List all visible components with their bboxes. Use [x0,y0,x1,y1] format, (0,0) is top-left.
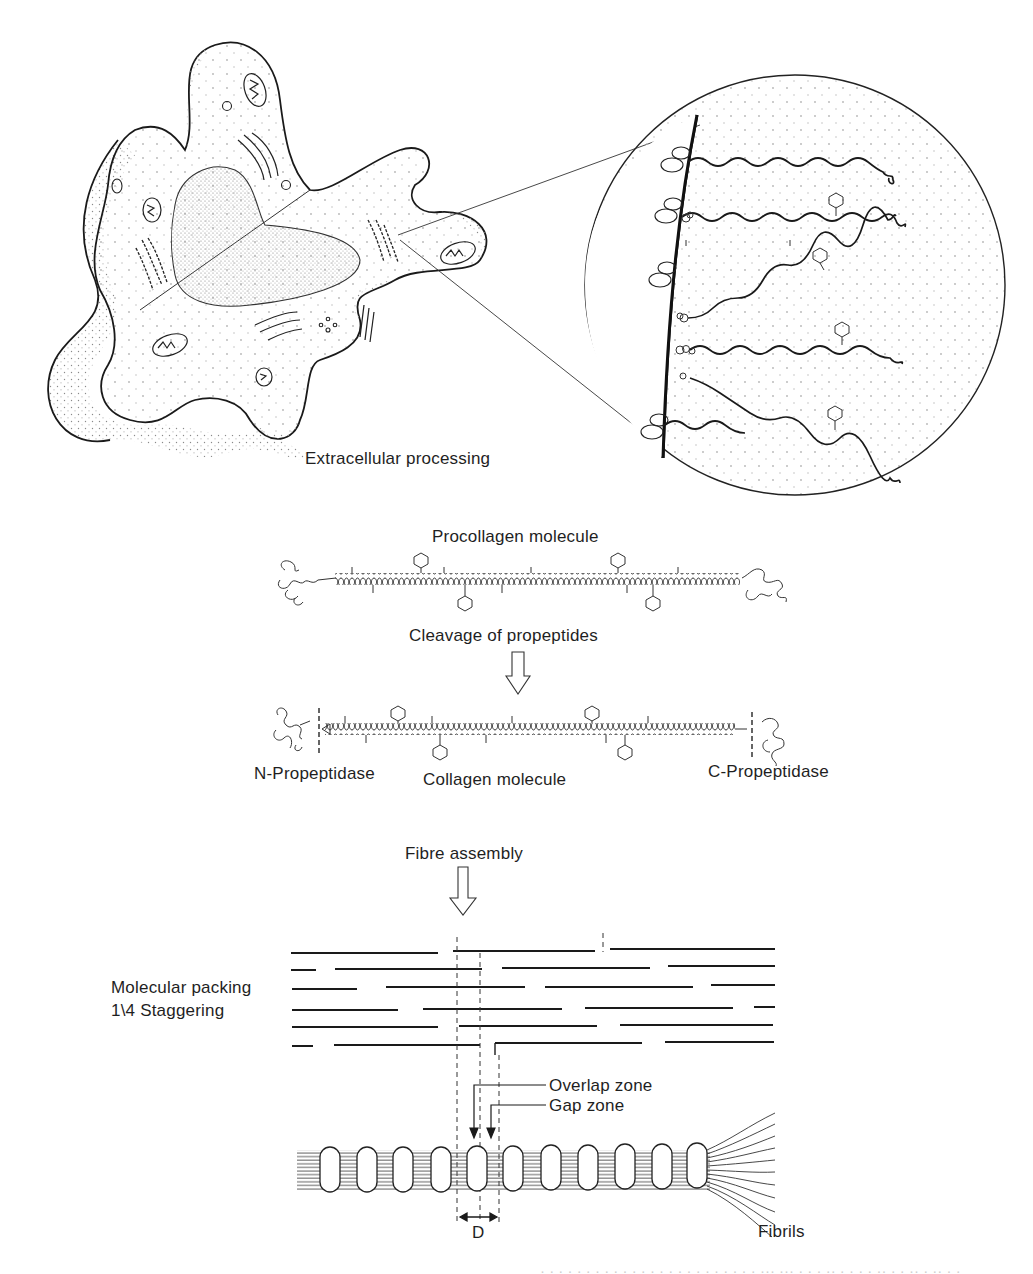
gap-zone-label: Gap zone [549,1097,624,1114]
fibrils-label: Fibrils [758,1223,805,1240]
cleavage-step-label: Cleavage of propeptides [409,627,598,644]
cut-off-caption-text: · · · · · · · · · · · · · · · · · · · · … [540,1262,961,1274]
collagen-molecule-illustration [274,706,784,766]
magnified-inset [585,75,1005,495]
n-propeptidase-label: N-Propeptidase [254,765,375,782]
d-period-indicator [460,1213,497,1221]
process-arrow-down-icon [450,867,476,915]
collagen-molecule-label: Collagen molecule [423,771,566,788]
zone-pointers [470,1085,546,1138]
procollagen-molecule-title: Procollagen molecule [432,528,599,545]
cell-illustration [48,42,486,459]
molecular-packing-label: Molecular packing [111,979,251,996]
extracellular-processing-label: Extracellular processing [305,450,490,467]
fibre-assembly-label: Fibre assembly [405,845,523,862]
d-period-label: D [472,1224,484,1241]
overlap-zone-label: Overlap zone [549,1077,653,1094]
c-propeptidase-label: C-Propeptidase [708,763,829,780]
fibrils-splay [707,1113,775,1237]
staggering-label: 1\4 Staggering [111,1002,224,1019]
molecular-packing-illustration [291,949,775,1055]
procollagen-molecule-illustration [278,553,786,611]
process-arrow-down-icon [506,652,530,694]
collagen-fibril-illustration [297,1113,775,1237]
